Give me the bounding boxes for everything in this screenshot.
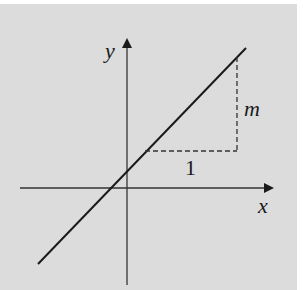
x-axis-label: x: [257, 193, 268, 218]
slope-diagram: y x m 1: [0, 0, 303, 290]
rise-label: m: [244, 96, 260, 121]
run-label: 1: [185, 155, 196, 180]
linear-function-line: [38, 48, 246, 264]
y-axis-label: y: [103, 38, 115, 63]
